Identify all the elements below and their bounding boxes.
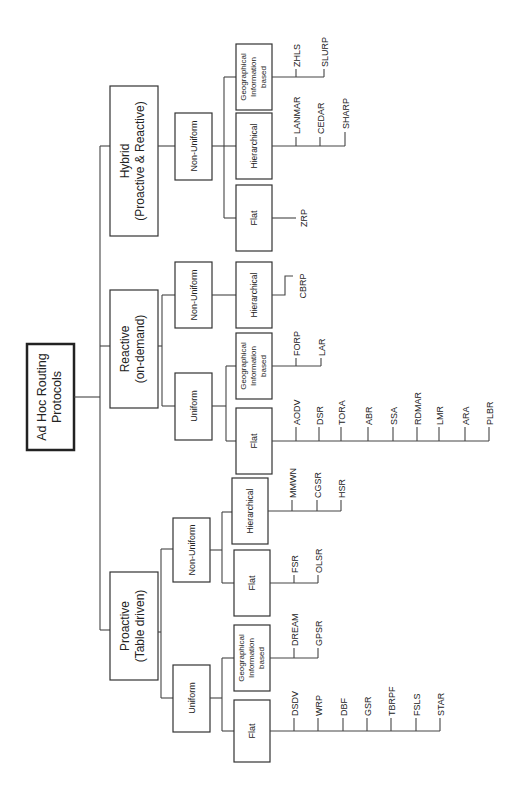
protocol-plbr: PLBR — [485, 401, 495, 425]
protocol-tora: TORA — [337, 400, 347, 425]
protocol-fsls: FSLS — [412, 693, 422, 716]
proactive-uniform-label: Uniform — [187, 682, 197, 714]
proactive-geographical-box: Geographical Information based — [234, 625, 270, 691]
category-reactive: Reactive (on-demand) — [110, 290, 158, 408]
protocol-lar: LAR — [317, 338, 327, 356]
hybrid-label-line1: Hybrid — [118, 144, 132, 179]
geo-label-1: Geographical — [239, 342, 248, 390]
reactive-flat-protocols: AODV DSR TORA ABR SSA RDMAR LMR ARA PLBR — [292, 392, 495, 441]
protocol-rdmar: RDMAR — [413, 392, 423, 425]
routing-protocol-taxonomy-diagram: Ad Hoc Routing Protocols Hybrid (Proacti… — [0, 0, 512, 811]
hybrid-flat-box: Flat — [236, 185, 272, 251]
geo-label-1: Geographical — [239, 53, 248, 101]
protocol-sharp: SHARP — [341, 98, 351, 129]
reactive-uniform: Uniform — [175, 373, 212, 440]
trunk-connectors — [74, 146, 110, 630]
protocol-zhls: ZHLS — [292, 44, 302, 67]
protocol-gpsr: GPSR — [314, 620, 324, 646]
protocol-dream: DREAM — [290, 613, 300, 646]
protocol-lanmar: LANMAR — [292, 96, 302, 134]
protocol-dsdv: DSDV — [290, 691, 300, 716]
hierarchical-label: Hierarchical — [245, 488, 255, 533]
root-label-line2: Protocols — [50, 371, 64, 423]
proactive-hierarchical-box: Hierarchical — [232, 478, 268, 544]
protocol-abr: ABR — [364, 406, 374, 425]
hybrid-non-uniform: Non-Uniform — [175, 113, 212, 180]
proactive-flat-protocols: DSDV WRP DBF GSR TBRPF FSLS STAR — [290, 686, 446, 731]
hierarchical-label: Hierarchical — [249, 123, 259, 168]
proactive-label-line1: Proactive — [118, 601, 132, 651]
proactive-uniform: Uniform — [173, 665, 210, 732]
hybrid-geographical-box: Geographical Information based — [236, 44, 272, 110]
proactive-non-uniform-label: Non-Uniform — [187, 524, 197, 575]
geo-label-3: based — [259, 66, 268, 88]
hierarchical-label: Hierarchical — [249, 272, 259, 317]
protocol-wrp: WRP — [314, 695, 324, 716]
protocol-tbrpf: TBRPF — [387, 686, 397, 716]
reactive-label-line1: Reactive — [118, 325, 132, 372]
protocol-ssa: SSA — [389, 407, 399, 425]
protocol-dbf: DBF — [339, 697, 349, 716]
flat-label: Flat — [249, 210, 259, 226]
geo-label-3: based — [259, 355, 268, 377]
protocol-cbrp: CBRP — [298, 273, 308, 298]
reactive-flat-box: Flat — [236, 408, 272, 474]
proactive-label-line2: (Table driven) — [133, 590, 147, 663]
reactive-uniform-label: Uniform — [189, 390, 199, 422]
geo-label-2: Information — [249, 57, 258, 97]
reactive-non-uniform-label: Non-Uniform — [189, 269, 199, 320]
protocol-slurp: SLURP — [320, 37, 330, 67]
reactive-label-line2: (on-demand) — [133, 315, 147, 384]
flat-label: Flat — [249, 433, 259, 449]
protocol-cedar: CEDAR — [316, 102, 326, 134]
reactive-non-uniform: Non-Uniform — [175, 262, 212, 328]
protocol-lmr: LMR — [435, 405, 445, 425]
proactive-non-uniform: Non-Uniform — [173, 518, 210, 582]
protocol-cgsr: CGSR — [313, 471, 323, 498]
proactive-uniform-flat-box: Flat — [234, 700, 270, 762]
protocol-aodv: AODV — [292, 399, 302, 425]
flat-label: Flat — [247, 575, 257, 591]
reactive-geographical-box: Geographical Information based — [236, 333, 272, 399]
proactive-nonuniform-flat-box: Flat — [234, 550, 270, 616]
hybrid-hierarchical-box: Hierarchical — [236, 113, 272, 179]
protocol-ara: ARA — [461, 406, 471, 425]
protocol-dsr: DSR — [315, 405, 325, 425]
protocol-forp: FORP — [292, 331, 302, 356]
geo-label-1: Geographical — [237, 634, 246, 682]
protocol-olsr: OLSR — [314, 548, 324, 573]
protocol-fsr: FSR — [290, 554, 300, 573]
root-label-line1: Ad Hoc Routing — [35, 353, 49, 441]
category-proactive: Proactive (Table driven) — [110, 572, 158, 680]
geo-label-2: Information — [247, 638, 256, 678]
protocol-gsr: GSR — [363, 696, 373, 716]
reactive-hierarchical-box: Hierarchical — [236, 262, 272, 328]
root-node: Ad Hoc Routing Protocols — [27, 344, 74, 450]
flat-label: Flat — [247, 723, 257, 739]
hybrid-non-uniform-label: Non-Uniform — [189, 120, 199, 171]
protocol-star: STAR — [436, 692, 446, 716]
geo-label-3: based — [257, 647, 266, 669]
protocol-mmwn: MMWN — [288, 468, 298, 498]
geo-label-2: Information — [249, 346, 258, 386]
protocol-hsr: HSR — [337, 478, 347, 498]
category-hybrid: Hybrid (Proactive & Reactive) — [110, 86, 158, 236]
protocol-zrp: ZRP — [299, 209, 309, 227]
hybrid-label-line2: (Proactive & Reactive) — [133, 101, 147, 220]
